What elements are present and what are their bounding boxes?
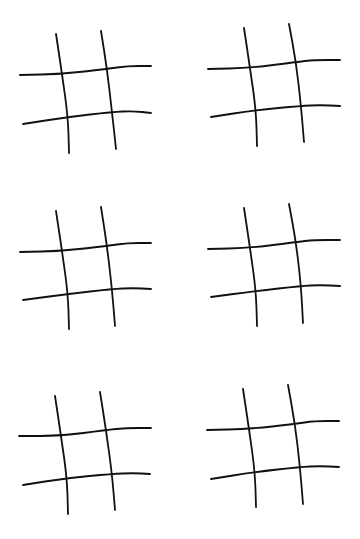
grid-vertical-line-2 — [101, 207, 115, 326]
grid-vertical-line-1 — [55, 396, 68, 514]
grid-horizontal-line-1 — [19, 428, 151, 436]
tic-tac-toe-grid-2 — [208, 24, 340, 146]
grid-horizontal-line-2 — [23, 473, 150, 485]
tic-tac-toe-grid-5 — [19, 392, 151, 514]
grid-horizontal-line-2 — [211, 285, 340, 297]
tic-tac-toe-sheet — [0, 0, 360, 539]
tic-tac-toe-grid-1 — [20, 31, 151, 153]
grid-vertical-line-2 — [288, 385, 303, 504]
grid-horizontal-line-2 — [211, 466, 339, 479]
grid-horizontal-line-1 — [20, 66, 151, 75]
grid-horizontal-line-1 — [20, 243, 151, 252]
grid-horizontal-line-2 — [23, 288, 151, 300]
grid-horizontal-line-1 — [208, 60, 340, 69]
tic-tac-toe-grid-6 — [207, 385, 339, 507]
grid-vertical-line-2 — [289, 24, 304, 142]
grid-vertical-line-1 — [56, 34, 69, 153]
grid-vertical-line-1 — [244, 208, 257, 326]
grid-vertical-line-1 — [244, 28, 257, 146]
tic-tac-toe-grid-3 — [20, 207, 151, 329]
grid-vertical-line-2 — [289, 204, 303, 323]
grid-horizontal-line-1 — [208, 240, 340, 249]
grid-horizontal-line-1 — [207, 421, 339, 430]
grid-vertical-line-1 — [56, 211, 69, 329]
grid-vertical-line-2 — [101, 31, 116, 149]
grid-horizontal-line-2 — [23, 111, 151, 124]
grid-vertical-line-1 — [243, 389, 256, 507]
tic-tac-toe-grid-4 — [208, 204, 340, 326]
grid-horizontal-line-2 — [211, 105, 340, 117]
grid-vertical-line-2 — [100, 392, 115, 510]
